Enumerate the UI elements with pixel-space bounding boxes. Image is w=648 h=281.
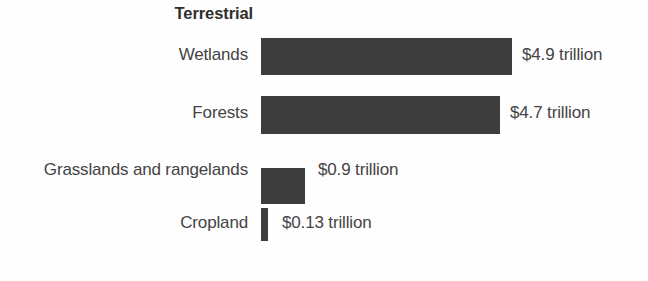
bar-row: Grasslands and rangelands $0.9 trillion [0, 150, 648, 190]
bar-row: Cropland $0.13 trillion [0, 203, 648, 243]
bar[interactable] [261, 168, 305, 204]
category-label: Grasslands and rangelands [0, 150, 248, 190]
bar-row: Wetlands $4.9 trillion [0, 35, 648, 75]
bar-row: Forests $4.7 trillion [0, 93, 648, 133]
bar[interactable] [261, 96, 500, 134]
value-label: $0.9 trillion [318, 150, 398, 190]
bar[interactable] [261, 38, 512, 75]
value-label: $4.7 trillion [510, 93, 590, 133]
value-label: $4.9 trillion [522, 35, 602, 75]
category-label: Wetlands [0, 35, 248, 75]
category-label: Cropland [0, 203, 248, 243]
category-label: Forests [0, 93, 248, 133]
value-label: $0.13 trillion [282, 203, 372, 243]
chart-title: Terrestrial [0, 4, 253, 23]
bar[interactable] [261, 208, 268, 241]
bar-chart: Terrestrial Wetlands $4.9 trillion Fores… [0, 0, 648, 281]
